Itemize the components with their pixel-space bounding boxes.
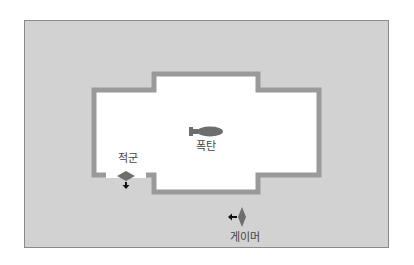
player-marker-icon [238, 207, 246, 227]
arrow-left-icon [228, 214, 237, 221]
bomb-label: 폭탄 [196, 137, 216, 153]
room-map [0, 0, 414, 265]
arrow-down-icon [123, 182, 130, 189]
enemy-label: 적군 [118, 149, 138, 165]
gamer-label: 게이머 [230, 228, 260, 244]
